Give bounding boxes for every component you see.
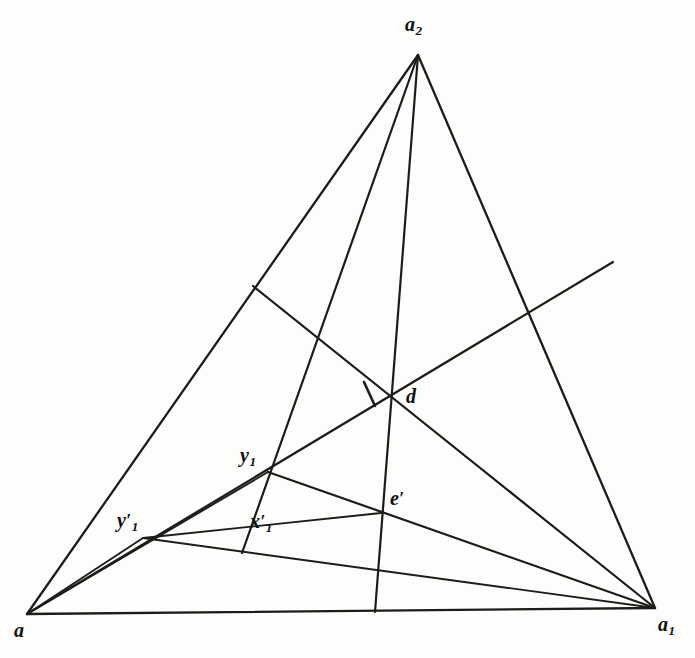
segment-leftedge-d-a1 — [253, 286, 655, 608]
label-sub-a1: 1 — [669, 623, 676, 638]
tick-mark-at-d — [364, 382, 375, 406]
label-text-a2: a — [405, 13, 415, 35]
label-text-d: d — [406, 385, 416, 407]
label-text-x1p: x — [250, 510, 260, 532]
label-prime-y1p: ′ — [126, 511, 131, 531]
vertex-label-x1-prime: x′1 — [250, 511, 272, 534]
label-text-y1: y — [240, 444, 249, 466]
figure-canvas — [0, 0, 695, 658]
cevian-a2-x1p — [242, 55, 418, 553]
vertex-label-a: a — [14, 620, 24, 640]
segment-y1p-a1 — [143, 538, 655, 608]
vertex-label-a2: a2 — [405, 14, 422, 37]
label-text-a1: a — [658, 613, 668, 635]
edge-a-a1-base — [27, 608, 655, 614]
vertex-label-y1-prime: y′1 — [117, 510, 138, 533]
vertex-label-d: d — [406, 386, 416, 406]
label-text-y1p: y — [117, 509, 126, 531]
segment-y1-a1 — [268, 472, 655, 608]
vertex-label-y1: y1 — [240, 445, 256, 468]
cevian-a2-base — [375, 55, 418, 612]
label-sub-y1: 1 — [249, 454, 256, 469]
geometry-figure: a a1 a2 d y1 e′ y′1 x′1 — [0, 0, 695, 658]
label-prime-e: ′ — [399, 489, 404, 509]
label-sub-x1p: 1 — [266, 520, 273, 535]
label-text-e: e — [390, 487, 399, 509]
edge-a2-a1 — [418, 55, 655, 608]
segment-a-y1 — [27, 472, 268, 614]
label-prime-x1p: ′ — [260, 512, 265, 532]
label-text-a: a — [14, 619, 24, 641]
label-sub-a2: 2 — [416, 23, 423, 38]
segment-a-y1p — [27, 538, 143, 614]
vertex-label-a1: a1 — [658, 614, 675, 637]
label-sub-y1p: 1 — [132, 519, 139, 534]
vertex-label-e-prime: e′ — [390, 488, 404, 508]
